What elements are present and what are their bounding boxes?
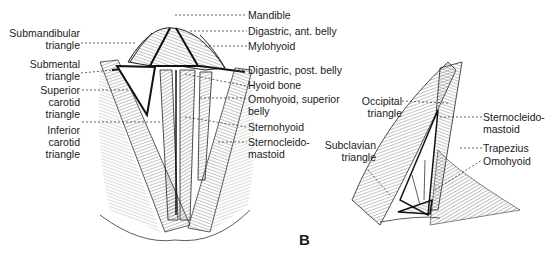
label-subclavian-triangle: Subclavian triangle <box>320 139 376 163</box>
label-superior-carotid-triangle: Superior carotid triangle <box>0 84 80 120</box>
panel-letter: B <box>299 231 310 248</box>
label-inferior-carotid-triangle: Inferior carotid triangle <box>0 124 80 160</box>
label-occipital-triangle: Occipital triangle <box>340 95 402 119</box>
label-digastric-ant-belly: Digastric, ant. belly <box>248 25 337 37</box>
label-sternocleidomastoid-right-view: Sternocleido- mastoid <box>483 111 545 135</box>
label-mandible: Mandible <box>248 9 291 21</box>
label-mylohyoid: Mylohyoid <box>248 40 295 52</box>
label-sternohyoid: Sternohyoid <box>248 121 304 133</box>
label-submandibular-triangle: Submandibular triangle <box>0 27 80 51</box>
label-sternocleidomastoid-left-view: Sternocleido- mastoid <box>248 136 310 160</box>
label-omohyoid-superior-belly: Omohyoid, superior belly <box>248 93 340 117</box>
label-omohyoid: Omohyoid <box>483 155 531 167</box>
anterior-neck-view <box>99 28 255 241</box>
label-trapezius: Trapezius <box>483 142 529 154</box>
label-hyoid-bone: Hyoid bone <box>248 79 301 91</box>
label-submental-triangle: Submental triangle <box>0 58 80 82</box>
label-digastric-post-belly: Digastric, post. belly <box>248 64 342 76</box>
